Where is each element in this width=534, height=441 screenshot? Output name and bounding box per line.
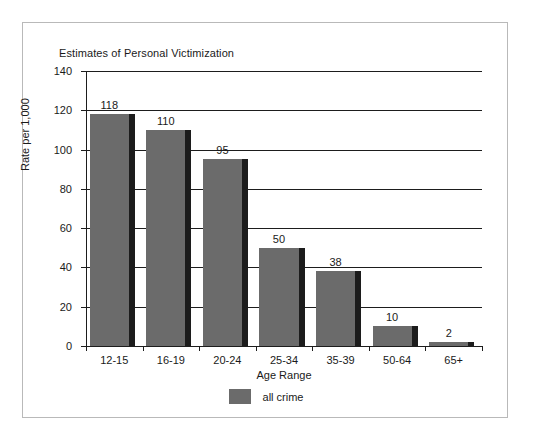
x-axis-label-50-64: 50-64 (369, 354, 426, 366)
x-axis-tick-7 (482, 346, 483, 351)
y-axis-label-0: 0 (66, 340, 72, 352)
legend-swatch-all-crime (229, 389, 251, 404)
y-axis-label-80: 80 (60, 183, 72, 195)
x-axis-title: Age Range (86, 369, 482, 381)
y-axis-label-60: 60 (60, 222, 72, 234)
x-axis-label-65+: 65+ (425, 354, 482, 366)
x-axis-label-20-24: 20-24 (199, 354, 256, 366)
y-axis-label-20: 20 (60, 301, 72, 313)
x-axis-label-layer: 12-1516-1920-2425-3435-3950-6465+ (86, 23, 482, 417)
y-axis-label-120: 120 (54, 104, 72, 116)
chart-legend: all crime (23, 389, 509, 404)
x-axis-label-12-15: 12-15 (86, 354, 143, 366)
figure-frame: Estimates of Personal Victimization Rate… (22, 22, 508, 418)
y-axis-label-40: 40 (60, 261, 72, 273)
x-axis-label-25-34: 25-34 (256, 354, 313, 366)
x-axis-label-35-39: 35-39 (312, 354, 369, 366)
y-axis-label-140: 140 (54, 65, 72, 77)
y-axis-title: Rate per 1,000 (19, 98, 31, 171)
legend-label-all-crime: all crime (263, 391, 304, 403)
y-axis-label-100: 100 (54, 144, 72, 156)
x-axis-label-16-19: 16-19 (143, 354, 200, 366)
